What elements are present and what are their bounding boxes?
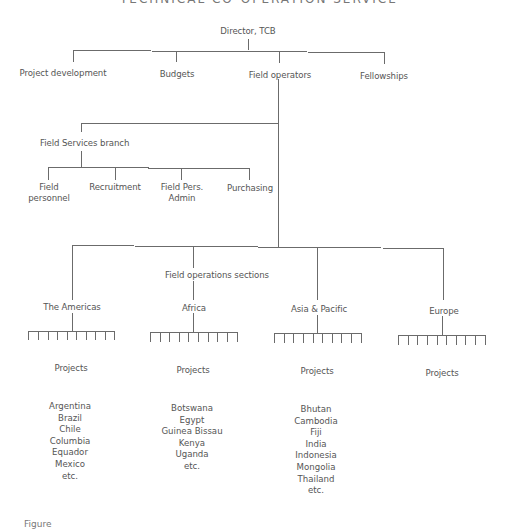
country-item: Fiji bbox=[294, 427, 337, 439]
country-item: Brazil bbox=[49, 413, 91, 425]
country-item: Kenya bbox=[161, 438, 222, 450]
node-field-operations-sections: Field operations sections bbox=[165, 270, 269, 281]
country-list-asia-pacific: Bhutan Cambodia Fiji India Indonesia Mon… bbox=[294, 404, 337, 497]
country-item: Equador bbox=[49, 447, 91, 459]
country-item: Guinea Bissau bbox=[161, 426, 222, 438]
node-field-services-branch: Field Services branch bbox=[40, 138, 129, 149]
country-item: Botswana bbox=[161, 403, 222, 415]
node-field-pers-admin: Field Pers. Admin bbox=[161, 182, 203, 204]
clipped-header: TECHNICAL CO-OPERATION SERVICE bbox=[120, 0, 398, 6]
node-field-pers-admin-line2: Admin bbox=[161, 193, 203, 204]
country-item: etc. bbox=[49, 471, 91, 483]
country-item: Indonesia bbox=[294, 450, 337, 462]
country-item: Mongolia bbox=[294, 462, 337, 474]
country-item: Cambodia bbox=[294, 416, 337, 428]
country-item: India bbox=[294, 439, 337, 451]
node-budgets: Budgets bbox=[160, 69, 195, 80]
clipped-caption: Figure bbox=[24, 519, 51, 529]
country-list-africa: Botswana Egypt Guinea Bissau Kenya Ugand… bbox=[161, 403, 222, 473]
country-item: Chile bbox=[49, 424, 91, 436]
node-recruitment-line1: Recruitment bbox=[89, 182, 141, 193]
node-region-africa: Africa bbox=[182, 303, 206, 314]
node-fellowships: Fellowships bbox=[360, 71, 408, 82]
country-list-americas: Argentina Brazil Chile Columbia Equador … bbox=[49, 401, 91, 482]
country-item: Argentina bbox=[49, 401, 91, 413]
node-region-europe: Europe bbox=[429, 306, 459, 317]
country-item: Egypt bbox=[161, 415, 222, 427]
node-field-personnel: Field personnel bbox=[28, 182, 70, 204]
node-region-americas: The Americas bbox=[43, 302, 100, 313]
node-field-pers-admin-line1: Field Pers. bbox=[161, 182, 203, 193]
country-item: Columbia bbox=[49, 436, 91, 448]
node-project-development: Project development bbox=[20, 68, 107, 79]
country-item: etc. bbox=[161, 461, 222, 473]
node-field-personnel-line1: Field bbox=[28, 182, 70, 193]
country-item: Mexico bbox=[49, 459, 91, 471]
projects-label-asia-pacific: Projects bbox=[300, 366, 333, 377]
country-item: Bhutan bbox=[294, 404, 337, 416]
country-item: Uganda bbox=[161, 449, 222, 461]
node-region-asia-pacific: Asia & Pacific bbox=[291, 304, 347, 315]
node-field-personnel-line2: personnel bbox=[28, 193, 70, 204]
node-field-operators: Field operators bbox=[249, 70, 312, 81]
node-purchasing: Purchasing bbox=[227, 183, 273, 194]
projects-label-europe: Projects bbox=[425, 368, 458, 379]
node-purchasing-line1: Purchasing bbox=[227, 183, 273, 194]
node-director: Director, TCB bbox=[220, 26, 275, 37]
country-item: etc. bbox=[294, 485, 337, 497]
node-recruitment: Recruitment bbox=[89, 182, 141, 193]
projects-label-americas: Projects bbox=[54, 363, 87, 374]
country-item: Thailand bbox=[294, 474, 337, 486]
projects-label-africa: Projects bbox=[176, 365, 209, 376]
